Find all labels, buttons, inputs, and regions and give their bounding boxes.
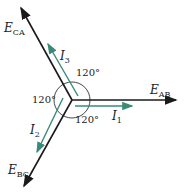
angle-label-top: 120°	[76, 67, 100, 78]
label-e-ab: EAB	[149, 83, 171, 99]
label-e-ca: ECA	[3, 21, 25, 37]
phasor-i2	[37, 98, 63, 152]
phasor-e-bc	[24, 100, 72, 186]
label-e-bc: EBC	[7, 163, 29, 179]
angle-label-left: 120°	[32, 94, 56, 105]
label-i1: I1	[111, 109, 122, 125]
phasor-diagram: ECA EAB EBC I3 I1 I2 120° 120° 120°	[0, 0, 188, 193]
label-i3: I3	[59, 49, 70, 65]
angle-label-bottom: 120°	[75, 114, 99, 125]
label-i2: I2	[29, 123, 40, 139]
